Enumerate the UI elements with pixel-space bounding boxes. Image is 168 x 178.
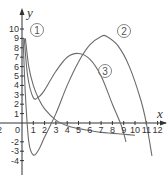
x-axis-label: x <box>156 106 163 121</box>
curve-2 <box>23 35 152 155</box>
y-tick-label: 1 <box>14 109 19 119</box>
x-tick-label: 11 <box>142 125 151 135</box>
x-tick-label: 2 <box>42 125 47 135</box>
curve-label-2: 2 <box>121 26 127 37</box>
y-axis-label: y <box>25 5 33 20</box>
x-tick-label: 10 <box>130 125 140 135</box>
x-tick-label: 4 <box>65 125 70 135</box>
x-tick-label: 1 <box>31 125 36 135</box>
x-tick-label: 8 <box>110 125 115 135</box>
x-tick-label: 2 <box>0 125 2 135</box>
x-tick-label: 6 <box>87 125 92 135</box>
curve-label-3: 3 <box>102 66 108 77</box>
x-tick-label: 9 <box>121 125 126 135</box>
x-tick-label: 5 <box>76 125 81 135</box>
curves <box>23 35 152 155</box>
x-tick-label: 12 <box>153 125 163 135</box>
origin-label: 0 <box>15 125 20 135</box>
x-tick-label: 7 <box>99 125 104 135</box>
x-tick-label: 3 <box>53 125 58 135</box>
y-tick-label: -4 <box>11 156 19 166</box>
curve-label-1: 1 <box>34 25 40 36</box>
curve-1 <box>25 38 135 135</box>
function-graph: 2123456789101112010987654321-2-3-4xy123 <box>0 0 168 178</box>
y-axis-arrow-icon <box>20 8 25 15</box>
